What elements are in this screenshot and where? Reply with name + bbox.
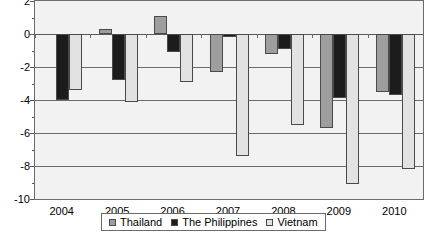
y-tick-label: 2 bbox=[0, 0, 30, 7]
bar bbox=[125, 34, 138, 102]
y-axis-tick-labels: 20-2-4-6-8-10 bbox=[0, 0, 30, 200]
y-tick-label: -4 bbox=[0, 95, 30, 106]
bar bbox=[154, 16, 167, 34]
bar bbox=[236, 34, 249, 156]
x-tick-label: 2010 bbox=[382, 205, 406, 217]
bar bbox=[376, 34, 389, 92]
chart-legend: ThailandThe PhilippinesVietnam bbox=[101, 213, 326, 231]
bar bbox=[278, 34, 291, 49]
y-tick-label: 0 bbox=[0, 29, 30, 40]
plot-wrapper: 20-2-4-6-8-10 20042005200620072008200920… bbox=[0, 0, 435, 200]
bar bbox=[402, 34, 415, 169]
bar bbox=[346, 34, 359, 184]
bar bbox=[291, 34, 304, 125]
bar bbox=[210, 34, 223, 72]
bar bbox=[180, 34, 193, 82]
legend-swatch-icon bbox=[266, 219, 273, 226]
y-tick-label: -6 bbox=[0, 128, 30, 139]
plot-area bbox=[34, 0, 424, 200]
legend-item[interactable]: Thailand bbox=[109, 217, 162, 228]
bar bbox=[389, 34, 402, 95]
x-tick-mark bbox=[423, 34, 424, 38]
legend-label: Thailand bbox=[120, 217, 162, 228]
legend-item[interactable]: The Philippines bbox=[171, 217, 257, 228]
x-tick-label: 2004 bbox=[49, 205, 73, 217]
bar bbox=[223, 34, 236, 37]
bar bbox=[320, 34, 333, 128]
bar bbox=[56, 34, 69, 100]
bars-layer bbox=[35, 1, 423, 199]
bar bbox=[69, 34, 82, 90]
legend-label: The Philippines bbox=[182, 217, 257, 228]
bar bbox=[265, 34, 278, 54]
bar bbox=[99, 29, 112, 34]
legend-item[interactable]: Vietnam bbox=[266, 217, 317, 228]
bar-chart: 20-2-4-6-8-10 20042005200620072008200920… bbox=[0, 0, 435, 239]
legend-label: Vietnam bbox=[277, 217, 317, 228]
y-tick-label: -8 bbox=[0, 161, 30, 172]
x-tick-label: 2009 bbox=[327, 205, 351, 217]
bar bbox=[333, 34, 346, 98]
y-tick-label: -2 bbox=[0, 62, 30, 73]
legend-swatch-icon bbox=[109, 219, 116, 226]
y-tick-label: -10 bbox=[0, 194, 30, 205]
bar bbox=[167, 34, 180, 52]
legend-swatch-icon bbox=[171, 219, 178, 226]
bar bbox=[112, 34, 125, 80]
